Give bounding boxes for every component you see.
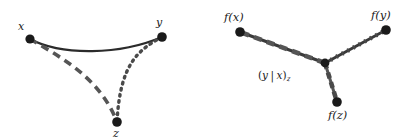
vertex-fz-node [332,97,342,107]
figure-root: x y z f(x) f(y) f(z) (y|x)z [0,0,409,140]
canvas-background [0,0,409,140]
gromov-mid-bar: | [271,69,275,81]
vertex-fy-node [381,25,391,35]
diagram-canvas [0,0,409,140]
label-vertex-fx: f(x) [224,12,244,24]
tripod-center-node [321,59,330,68]
vertex-y-node [157,32,167,42]
gromov-var-y: y [262,69,268,81]
vertex-z-node [112,117,122,127]
label-vertex-y: y [156,17,162,28]
label-vertex-x: x [18,21,24,32]
gromov-subscript-z: z [287,74,291,83]
label-vertex-fy: f(y) [371,10,391,22]
label-vertex-z: z [113,128,119,139]
vertex-fx-node [235,27,245,37]
vertex-x-node [25,34,34,43]
label-vertex-fz: f(z) [328,110,347,122]
label-gromov-product: (y|x)z [258,70,290,82]
